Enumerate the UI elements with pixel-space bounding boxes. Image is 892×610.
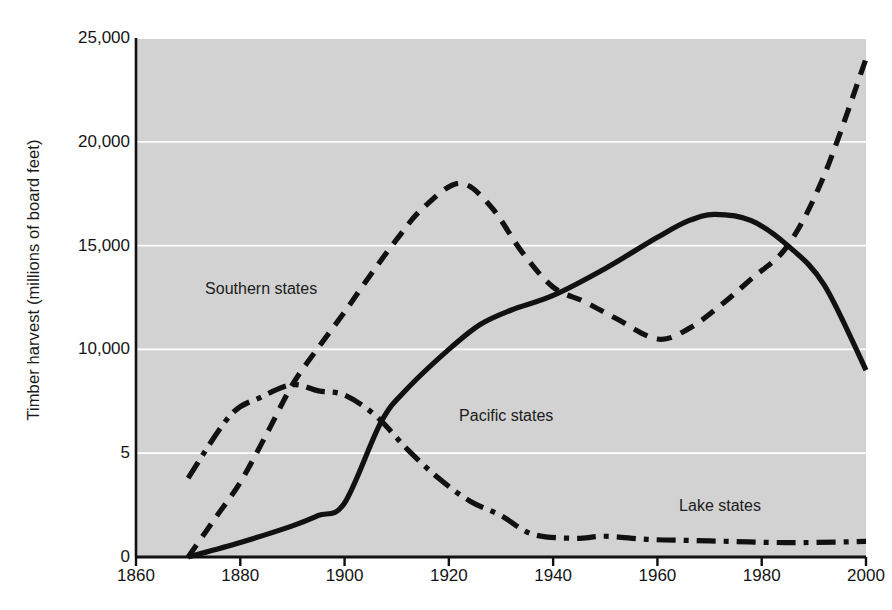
- series-label-1: Pacific states: [459, 407, 553, 425]
- series-label-0: Southern states: [205, 280, 317, 298]
- series-label-2: Lake states: [679, 497, 761, 515]
- chart-figure: Timber harvest (millions of board feet) …: [0, 0, 892, 610]
- plot-canvas: [0, 0, 892, 610]
